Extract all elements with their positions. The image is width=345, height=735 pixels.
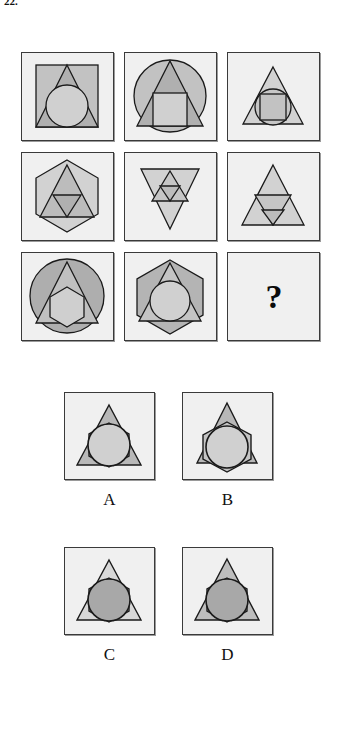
- matrix-grid: ?: [21, 52, 324, 348]
- answer-option-b[interactable]: B: [182, 392, 286, 509]
- matrix-cell-5[interactable]: [124, 152, 217, 241]
- matrix-cell-6[interactable]: [227, 152, 320, 241]
- figure-triangle-hexagon-circle-a: [65, 393, 153, 478]
- answer-option-a[interactable]: A: [64, 392, 168, 509]
- answer-option-b-label: B: [182, 491, 273, 509]
- figure-triangle-circle-square: [228, 53, 318, 139]
- figure-invtriangle-triangle-invtriangle: [125, 153, 215, 239]
- matrix-cell-1[interactable]: [21, 52, 114, 141]
- answer-option-c-figure[interactable]: [64, 547, 155, 635]
- answer-option-c[interactable]: C: [64, 547, 168, 664]
- question-mark: ?: [228, 253, 319, 340]
- figure-triangle-hexagon-circle-d: [183, 548, 271, 633]
- answer-option-c-label: C: [64, 646, 155, 664]
- answer-options: A B C: [0, 392, 345, 692]
- figure-square-triangle-circle: [22, 53, 112, 139]
- answer-option-a-label: A: [64, 491, 155, 509]
- item-number: 22.: [4, 0, 18, 7]
- matrix-reasoning-page: 22.: [0, 0, 345, 735]
- answer-option-d-figure[interactable]: [182, 547, 273, 635]
- figure-hexagon-triangle-invtriangle: [22, 153, 112, 239]
- matrix-cell-8[interactable]: [124, 252, 217, 341]
- figure-circle-triangle-hexagon: [22, 253, 112, 339]
- matrix-cell-7[interactable]: [21, 252, 114, 341]
- figure-triangle-invtriangle-invtriangle: [228, 153, 318, 239]
- figure-triangle-hexagon-circle-c: [65, 548, 153, 633]
- answer-option-a-figure[interactable]: [64, 392, 155, 480]
- matrix-cell-9-missing[interactable]: ?: [227, 252, 320, 341]
- answer-option-b-figure[interactable]: [182, 392, 273, 480]
- figure-hexagon-triangle-circle: [125, 253, 215, 339]
- figure-triangle-hexagon-circle-b: [183, 393, 271, 478]
- matrix-cell-2[interactable]: [124, 52, 217, 141]
- figure-circle-triangle-square: [125, 53, 215, 139]
- answer-option-d[interactable]: D: [182, 547, 286, 664]
- matrix-cell-3[interactable]: [227, 52, 320, 141]
- matrix-cell-4[interactable]: [21, 152, 114, 241]
- answer-option-d-label: D: [182, 646, 273, 664]
